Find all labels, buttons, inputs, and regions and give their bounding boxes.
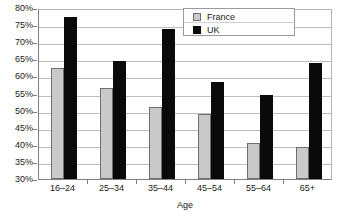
y-axis-tick-label: 30% bbox=[0, 175, 33, 184]
y-axis-tick-mark bbox=[33, 112, 37, 113]
bar-uk bbox=[64, 17, 77, 179]
y-axis-tick-mark bbox=[33, 180, 37, 181]
y-axis-tick-label: 55% bbox=[0, 90, 33, 99]
bar-uk bbox=[260, 95, 273, 179]
y-axis-tick-mark bbox=[33, 77, 37, 78]
legend-item-france: France bbox=[184, 10, 294, 23]
legend-item-uk: UK bbox=[184, 23, 294, 36]
y-axis: 80%75%70%65%60%55%50%45%40%35%30% bbox=[0, 9, 38, 180]
x-axis-tick-label: 45–54 bbox=[185, 183, 234, 194]
legend: France UK bbox=[183, 8, 295, 36]
y-axis-tick-mark bbox=[33, 129, 37, 130]
legend-swatch-france-icon bbox=[193, 13, 201, 21]
bar-group bbox=[51, 10, 77, 179]
legend-label-france: France bbox=[207, 12, 235, 22]
bar-france bbox=[198, 114, 211, 179]
y-axis-tick-mark bbox=[33, 146, 37, 147]
legend-swatch-uk-icon bbox=[193, 26, 201, 34]
y-axis-tick-label: 60% bbox=[0, 72, 33, 81]
y-axis-tick-label: 40% bbox=[0, 141, 33, 150]
y-axis-tick-mark bbox=[33, 26, 37, 27]
y-axis-tick-label: 80% bbox=[0, 4, 33, 13]
legend-label-uk: UK bbox=[207, 25, 220, 35]
bar-uk bbox=[309, 63, 322, 179]
bar-group bbox=[296, 10, 322, 179]
y-axis-tick-label: 35% bbox=[0, 158, 33, 167]
y-axis-tick-label: 75% bbox=[0, 21, 33, 30]
bar-group bbox=[100, 10, 126, 179]
x-axis-tick-label: 16–24 bbox=[38, 183, 87, 194]
bar-france bbox=[51, 68, 64, 179]
x-axis-tick-mark bbox=[283, 180, 284, 184]
bar-france bbox=[149, 107, 162, 179]
y-axis-tick-mark bbox=[33, 60, 37, 61]
bar-france bbox=[247, 143, 260, 179]
y-axis-tick-label: 65% bbox=[0, 55, 33, 64]
x-axis-tick-mark bbox=[185, 180, 186, 184]
x-axis-tick-label: 55–64 bbox=[234, 183, 283, 194]
bar-france bbox=[100, 88, 113, 179]
bar-chart: 80%75%70%65%60%55%50%45%40%35%30% 16–242… bbox=[0, 0, 344, 222]
x-axis: 16–2425–3435–4445–5455–6465+ bbox=[38, 183, 332, 197]
y-axis-tick-mark bbox=[33, 163, 37, 164]
x-axis-tick-mark bbox=[136, 180, 137, 184]
bar-uk bbox=[113, 61, 126, 179]
x-axis-tick-label: 35–44 bbox=[136, 183, 185, 194]
bar-france bbox=[296, 147, 309, 179]
y-axis-tick-mark bbox=[33, 95, 37, 96]
y-axis-tick-label: 70% bbox=[0, 38, 33, 47]
bar-group bbox=[149, 10, 175, 179]
x-axis-title: Age bbox=[38, 200, 332, 210]
y-axis-tick-label: 50% bbox=[0, 107, 33, 116]
y-axis-tick-mark bbox=[33, 43, 37, 44]
y-axis-tick-label: 45% bbox=[0, 124, 33, 133]
y-axis-tick-mark bbox=[33, 9, 37, 10]
x-axis-tick-label: 25–34 bbox=[87, 183, 136, 194]
bar-uk bbox=[162, 29, 175, 179]
x-axis-tick-label: 65+ bbox=[283, 183, 332, 194]
x-axis-tick-mark bbox=[234, 180, 235, 184]
bar-uk bbox=[211, 82, 224, 179]
x-axis-tick-mark bbox=[87, 180, 88, 184]
